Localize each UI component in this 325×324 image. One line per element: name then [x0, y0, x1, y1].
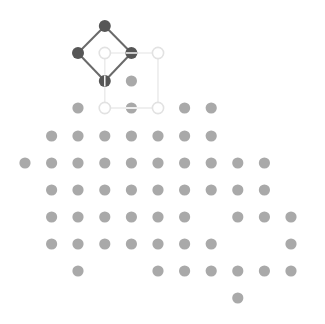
- grid-dot[interactable]: [285, 211, 296, 222]
- grid-dot[interactable]: [259, 157, 270, 168]
- grid-dot[interactable]: [179, 130, 190, 141]
- grid-dot[interactable]: [19, 157, 30, 168]
- grid-dot[interactable]: [179, 184, 190, 195]
- grid-dot[interactable]: [126, 157, 137, 168]
- ghost-node: [99, 102, 110, 113]
- grid-dot[interactable]: [206, 157, 217, 168]
- grid-dot[interactable]: [46, 238, 57, 249]
- grid-dot[interactable]: [126, 130, 137, 141]
- grid-dot[interactable]: [232, 184, 243, 195]
- game-board[interactable]: [0, 0, 325, 324]
- grid-dot[interactable]: [179, 157, 190, 168]
- grid-dot[interactable]: [206, 184, 217, 195]
- grid-dot[interactable]: [232, 292, 243, 303]
- ghost-node: [99, 47, 110, 58]
- grid-dot[interactable]: [152, 211, 163, 222]
- grid-dot[interactable]: [206, 265, 217, 276]
- grid-dot[interactable]: [126, 184, 137, 195]
- grid-dot[interactable]: [72, 211, 83, 222]
- ghost-node: [152, 47, 163, 58]
- grid-dot[interactable]: [46, 157, 57, 168]
- grid-dot[interactable]: [126, 211, 137, 222]
- grid-dot[interactable]: [152, 157, 163, 168]
- grid-dot[interactable]: [179, 265, 190, 276]
- active-node[interactable]: [99, 20, 111, 32]
- grid-dot[interactable]: [72, 157, 83, 168]
- grid-dot[interactable]: [99, 211, 110, 222]
- grid-dot[interactable]: [152, 130, 163, 141]
- grid-dot[interactable]: [232, 211, 243, 222]
- grid-dot[interactable]: [46, 130, 57, 141]
- grid-dot[interactable]: [46, 211, 57, 222]
- grid-dot[interactable]: [259, 184, 270, 195]
- grid-dot[interactable]: [152, 238, 163, 249]
- grid-dot[interactable]: [72, 238, 83, 249]
- grid-dot[interactable]: [72, 265, 83, 276]
- grid-dot[interactable]: [206, 130, 217, 141]
- grid-dot[interactable]: [232, 157, 243, 168]
- grid-dot[interactable]: [99, 130, 110, 141]
- grid-dot[interactable]: [46, 184, 57, 195]
- grid-dot[interactable]: [259, 265, 270, 276]
- grid-dot[interactable]: [72, 102, 83, 113]
- ghost-node: [152, 102, 163, 113]
- grid-dot[interactable]: [152, 184, 163, 195]
- grid-dot[interactable]: [126, 75, 137, 86]
- grid-dot[interactable]: [99, 184, 110, 195]
- grid-dot[interactable]: [72, 184, 83, 195]
- grid-dot[interactable]: [179, 238, 190, 249]
- grid-dot[interactable]: [259, 211, 270, 222]
- grid-dot[interactable]: [285, 238, 296, 249]
- grid-dot[interactable]: [99, 238, 110, 249]
- active-node[interactable]: [72, 47, 84, 59]
- grid-dot[interactable]: [126, 238, 137, 249]
- board-canvas[interactable]: [0, 0, 325, 324]
- grid-dot[interactable]: [206, 102, 217, 113]
- grid-dot[interactable]: [206, 238, 217, 249]
- grid-dot[interactable]: [285, 265, 296, 276]
- grid-dot[interactable]: [99, 157, 110, 168]
- grid-dot[interactable]: [72, 130, 83, 141]
- grid-dot[interactable]: [179, 211, 190, 222]
- grid-dot[interactable]: [152, 265, 163, 276]
- grid-dot[interactable]: [179, 102, 190, 113]
- grid-dot[interactable]: [232, 265, 243, 276]
